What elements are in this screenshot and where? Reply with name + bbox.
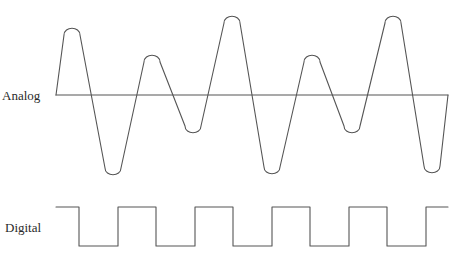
digital-waveform xyxy=(56,207,448,246)
signal-diagram xyxy=(0,0,460,260)
